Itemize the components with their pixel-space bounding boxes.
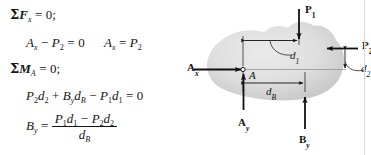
label-dB: dB	[266, 86, 276, 100]
term-A-subscript: x	[34, 43, 38, 52]
fraction-denominator: dB	[52, 127, 117, 141]
point-A-marker	[241, 67, 245, 71]
fraction-numerator: P1d1−P2d2	[52, 112, 117, 127]
moment-subscript: A	[31, 69, 36, 78]
term-d1: d	[112, 88, 119, 103]
num-d2-subscript: 2	[110, 119, 114, 128]
rhs-value: 0;	[46, 7, 56, 22]
term-By: B	[63, 88, 71, 103]
lhs-B-subscript: y	[34, 126, 38, 135]
term-P1-subscript: 1	[108, 96, 112, 105]
term-P2-subscript: 2	[34, 96, 38, 105]
equals-sign: =	[36, 61, 50, 76]
rhs-value: 0	[78, 35, 85, 50]
force-symbol: F	[19, 7, 28, 22]
equation-sum-forces-x: ΣFx=0;	[10, 8, 56, 21]
term-d2-subscript: 2	[44, 96, 48, 105]
num-minus-sign: −	[77, 111, 91, 126]
fraction: P1d1−P2d2 dB	[52, 112, 117, 141]
equation-ax-result: Ax=P2	[104, 36, 142, 49]
label-d2: d2	[361, 63, 370, 77]
diagram-canvas	[186, 0, 371, 155]
term-dB-subscript: B	[81, 96, 86, 105]
term-P1: P	[100, 88, 108, 103]
equation-by-result: By= P1d1−P2d2 dB	[26, 113, 117, 142]
sigma-symbol: Σ	[10, 61, 19, 76]
label-P1: P1	[305, 4, 315, 18]
term-P2: P	[26, 88, 34, 103]
rhs-P: P	[130, 35, 138, 50]
rhs-value: 0	[137, 88, 144, 103]
label-Ax: Ax	[187, 62, 199, 76]
equals-sign: =	[31, 7, 45, 22]
term-By-subscript: y	[71, 96, 75, 105]
equation-block: ΣFx=0; Ax−P2=0 Ax=P2 ΣMA=0; P2d2+BydB−P1…	[0, 0, 186, 155]
minus-sign: −	[86, 88, 100, 103]
lhs-B: B	[26, 118, 34, 133]
term-dB: d	[74, 88, 81, 103]
rhs-value: 0;	[50, 61, 60, 76]
num-P2: P	[92, 111, 100, 126]
page-edge-line	[364, 0, 365, 155]
num-d1-subscript: 1	[73, 119, 77, 128]
num-P1: P	[55, 111, 63, 126]
rhs-P-subscript: 2	[138, 43, 142, 52]
lhs-A-subscript: x	[112, 43, 116, 52]
force-subscript: x	[28, 15, 32, 24]
equals-sign: =	[38, 118, 52, 133]
label-Ay: Ay	[238, 117, 249, 131]
equation-moment-balance: P2d2+BydB−P1d1=0	[26, 89, 143, 102]
free-body-diagram: P1 P2 Ax Ay By A d1 d2 dB	[186, 0, 371, 155]
num-P1-subscript: 1	[63, 119, 67, 128]
equals-sign: =	[116, 35, 130, 50]
equals-sign: =	[64, 35, 78, 50]
minus-sign: −	[38, 35, 52, 50]
plus-sign: +	[48, 88, 62, 103]
label-By: By	[299, 134, 310, 148]
den-d-subscript: B	[85, 135, 90, 144]
num-P2-subscript: 2	[100, 119, 104, 128]
equation-sum-moments-a: ΣMA=0;	[10, 62, 60, 75]
term-d1-subscript: 1	[119, 96, 123, 105]
lhs-A: A	[104, 35, 112, 50]
moment-symbol: M	[19, 61, 31, 76]
equation-solve-ax: Ax−P2=0	[26, 36, 85, 49]
term-P: P	[52, 35, 60, 50]
term-P-subscript: 2	[60, 43, 64, 52]
term-A: A	[26, 35, 34, 50]
equals-sign: =	[123, 88, 137, 103]
worked-example-page: ΣFx=0; Ax−P2=0 Ax=P2 ΣMA=0; P2d2+BydB−P1…	[0, 0, 371, 155]
label-point-A: A	[249, 70, 256, 81]
label-d1: d1	[290, 50, 299, 64]
sigma-symbol: Σ	[10, 7, 19, 22]
